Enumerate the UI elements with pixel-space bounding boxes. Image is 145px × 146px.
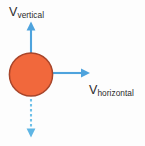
projectile-ball <box>9 53 52 96</box>
vertical-label-subscript: vertical <box>17 10 44 20</box>
horizontal-label-subscript: horizontal <box>97 88 133 98</box>
downward-dashed-vector <box>27 99 36 138</box>
velocity-components-diagram: Vvertical Vhorizontal <box>0 0 145 146</box>
vertical-velocity-label: Vvertical <box>9 3 44 19</box>
vector-diagram-canvas <box>0 0 145 146</box>
horizontal-velocity-vector <box>51 69 90 78</box>
horizontal-velocity-label: Vhorizontal <box>89 81 134 97</box>
vertical-velocity-vector <box>27 22 36 54</box>
horizontal-vector-arrowhead <box>81 69 90 78</box>
dashed-vector-arrowhead <box>27 129 36 138</box>
vertical-vector-arrowhead <box>27 22 36 31</box>
